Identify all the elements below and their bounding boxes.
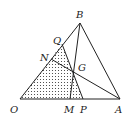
label-A: A: [114, 104, 122, 115]
label-G: G: [78, 62, 86, 73]
label-N: N: [39, 52, 50, 63]
label-O: O: [10, 104, 18, 115]
label-Q: Q: [53, 35, 61, 46]
geometry-diagram: B Q N G O M P A: [0, 0, 133, 120]
label-M: M: [63, 104, 75, 115]
label-P: P: [79, 104, 87, 115]
label-B: B: [75, 9, 83, 20]
